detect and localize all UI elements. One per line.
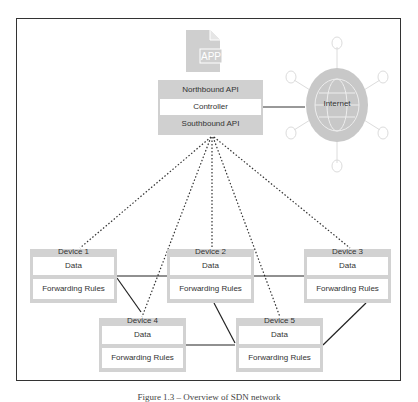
- device-5: Device 5 Data Forwarding Rules: [236, 318, 323, 372]
- northbound-api-label: Northbound API: [158, 83, 263, 97]
- device-title: Device 1: [30, 247, 117, 257]
- device-data: Data: [239, 326, 320, 344]
- app-label: APP: [201, 51, 221, 62]
- southbound-api-label: Southbound API: [158, 117, 263, 131]
- device-forwarding-rules: Forwarding Rules: [170, 279, 251, 299]
- controller-label: Controller: [160, 99, 261, 115]
- device-title: Device 2: [167, 247, 254, 257]
- device-forwarding-rules: Forwarding Rules: [239, 348, 320, 368]
- device-data: Data: [102, 326, 183, 344]
- device-data: Data: [307, 257, 388, 275]
- device-forwarding-rules: Forwarding Rules: [33, 279, 114, 299]
- device-forwarding-rules: Forwarding Rules: [102, 348, 183, 368]
- device-title: Device 5: [236, 316, 323, 326]
- device-4: Device 4 Data Forwarding Rules: [99, 318, 186, 372]
- device-title: Device 4: [99, 316, 186, 326]
- device-forwarding-rules: Forwarding Rules: [307, 279, 388, 299]
- app-document-icon: APP: [186, 30, 222, 72]
- device-1: Device 1 Data Forwarding Rules: [30, 249, 117, 303]
- figure-caption: Figure 1.3 – Overview of SDN network: [0, 392, 418, 402]
- sdn-controller: Northbound API Controller Southbound API: [158, 80, 263, 135]
- device-3: Device 3 Data Forwarding Rules: [304, 249, 391, 303]
- device-data: Data: [33, 257, 114, 275]
- device-title: Device 3: [304, 247, 391, 257]
- internet-label: Internet: [317, 99, 357, 108]
- device-data: Data: [170, 257, 251, 275]
- device-2: Device 2 Data Forwarding Rules: [167, 249, 254, 303]
